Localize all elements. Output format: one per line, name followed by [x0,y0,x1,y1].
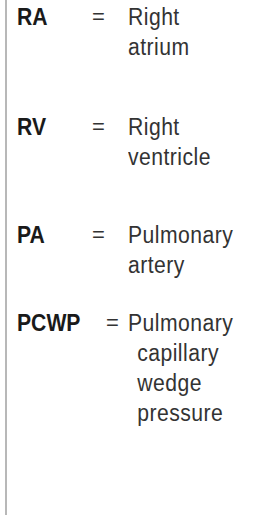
equals-sign: = [106,308,119,338]
definition-line: capillary [128,338,233,368]
equals-sign: = [92,112,105,142]
left-border-rule [5,0,7,515]
definition-line: ventricle [128,142,211,172]
equals-sign: = [92,2,105,32]
definition: Pulmonary capillary wedge pressure [128,308,233,428]
definition-line: pressure [128,398,233,428]
definition-line: Right [128,2,190,32]
definition-line: atrium [128,32,190,62]
definition: Right atrium [128,2,190,62]
abbreviation: PA [17,220,45,250]
definition: Right ventricle [128,112,211,172]
definition-line: artery [128,250,233,280]
equals-sign: = [92,220,105,250]
abbreviation: RA [17,2,48,32]
definition-line: wedge [128,368,233,398]
definition: Pulmonary artery [128,220,233,280]
definition-line: Pulmonary [128,220,233,250]
definition-line: Pulmonary [128,308,233,338]
abbreviation: RV [17,112,46,142]
abbreviation: PCWP [17,308,80,338]
definition-line: Right [128,112,211,142]
